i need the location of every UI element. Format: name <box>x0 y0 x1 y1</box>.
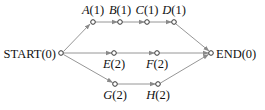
node-f <box>155 51 160 56</box>
edge-start-a <box>64 24 91 52</box>
labels: START(0) END(0) A(1) B(1) C(1) D(1) E(2)… <box>4 3 257 102</box>
node-a <box>91 20 96 25</box>
label-a: A(1) <box>81 3 104 17</box>
label-end: END(0) <box>216 47 256 61</box>
label-h: H(2) <box>145 88 170 102</box>
node-start <box>59 51 64 56</box>
network-diagram: START(0) END(0) A(1) B(1) C(1) D(1) E(2)… <box>0 0 265 110</box>
label-d: D(1) <box>161 3 186 17</box>
node-d <box>172 20 177 25</box>
edge-d-end <box>176 24 209 51</box>
label-e: E(2) <box>102 57 125 71</box>
label-start: START(0) <box>4 47 56 61</box>
node-h <box>156 82 161 87</box>
edges <box>64 22 210 84</box>
label-c: C(1) <box>136 3 159 17</box>
node-end <box>209 51 214 56</box>
node-c <box>145 20 150 25</box>
node-e <box>112 51 117 56</box>
label-b: B(1) <box>109 3 131 17</box>
label-f: F(2) <box>145 57 168 71</box>
label-g: G(2) <box>103 88 127 102</box>
node-b <box>118 20 123 25</box>
node-g <box>113 82 118 87</box>
